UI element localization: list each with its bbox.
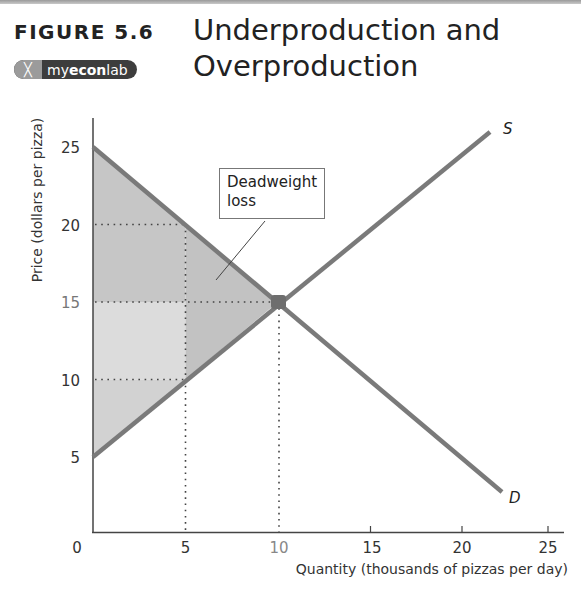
x-tick-label-10: 10 <box>269 539 288 557</box>
y-tick-label-25: 25 <box>61 139 80 157</box>
origin-label: 0 <box>72 539 82 557</box>
y-tick-label-20: 20 <box>61 217 80 235</box>
x-tick-label-25: 25 <box>538 539 557 557</box>
x-axis-title: Quantity (thousands of pizzas per day) <box>296 561 568 577</box>
shade-middle-band <box>93 302 186 380</box>
dwl-label-line1: Deadweight <box>227 173 317 192</box>
y-axis-title: Price (dollars per pizza) <box>29 118 45 283</box>
y-tick-label-5: 5 <box>70 449 80 467</box>
y-tick-label-10: 10 <box>61 372 80 390</box>
equilibrium-point <box>271 295 286 309</box>
x-tick-label-15: 15 <box>362 539 381 557</box>
supply-label: S <box>503 120 513 138</box>
y-tick-label-15: 15 <box>61 294 80 312</box>
x-tick-label-5: 5 <box>181 539 191 557</box>
dwl-label-line2: loss <box>227 192 317 211</box>
x-tick-label-20: 20 <box>452 539 471 557</box>
chart: S D 25 20 15 10 5 0 5 10 15 20 25 Quanti… <box>0 0 581 590</box>
demand-label: D <box>509 489 521 507</box>
deadweight-loss-label: Deadweight loss <box>219 168 325 219</box>
